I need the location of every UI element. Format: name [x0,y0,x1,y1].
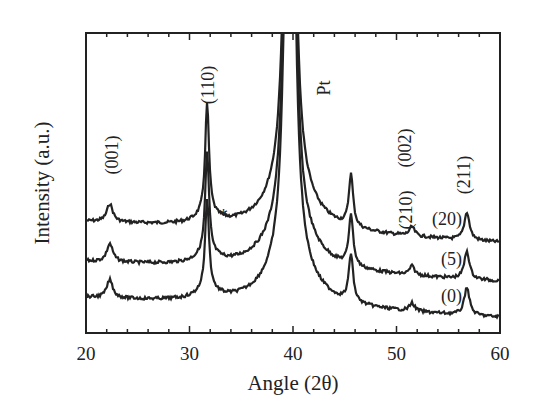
x-tick-label: 60 [491,343,510,364]
series-label: (0) [441,286,462,307]
xrd-trace-0 [87,13,499,318]
peak-label: (210) [396,191,417,230]
x-tick-labels: 2030405060 [77,343,510,364]
xrd-trace-20 [87,13,499,242]
peak-label: (211) [454,156,475,194]
series-label: (5) [441,249,462,270]
x-tick-label: 20 [77,343,96,364]
plot-area [87,13,499,318]
xrd-trace-5 [87,13,499,282]
x-tick-label: 40 [284,343,303,364]
series-labels: (20)(5)(0) [432,209,462,307]
peak-label: (001) [102,136,123,175]
x-tick-label: 50 [387,343,406,364]
peak-label: (110) [198,66,219,104]
xrd-chart: 2030405060 Angle (2θ) Intensity (a.u.) *… [0,0,540,418]
axis-ticks [86,33,500,333]
x-axis-title: Angle (2θ) [247,371,338,395]
y-axis-title: Intensity (a.u.) [30,121,54,244]
series-label: (20) [432,209,462,230]
x-tick-label: 30 [180,343,199,364]
peak-labels: *(001)(110)Pt(002)(210)(211) [102,66,475,230]
peak-label: Pt [314,80,334,95]
peak-label: (002) [395,129,416,168]
asterisk-annotation: * [219,206,228,226]
plot-frame [86,33,500,333]
